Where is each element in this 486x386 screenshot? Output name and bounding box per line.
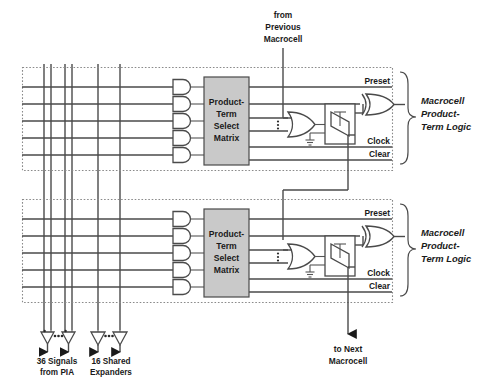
xor-gate-top — [362, 94, 405, 115]
macrocell-top-brace-label-line3: Term Logic — [421, 121, 472, 132]
macrocell-top-brace — [400, 72, 416, 164]
macrocell-bottom-brace-label-line2: Product- — [421, 240, 460, 251]
input-buffers — [41, 330, 127, 352]
macrocell-top-chain-output — [283, 135, 355, 240]
macrocell-bottom-or-input-ellipsis — [277, 252, 279, 261]
diagram-canvas: Product- Term Select Matrix — [0, 0, 486, 386]
matrix-label-line3-bottom: Select — [214, 253, 239, 263]
macrocell-bottom-brace — [400, 204, 416, 296]
clear-label-top: Clear — [369, 149, 391, 159]
multiplexer-bottom — [325, 236, 355, 276]
macrocell-bottom: Product- Term Select Matrix — [22, 200, 472, 335]
from-previous-macrocell-line3: Macrocell — [264, 34, 303, 44]
ground-symbol-bottom — [306, 265, 326, 277]
preset-label-top: Preset — [364, 76, 390, 86]
xor-gate-bottom — [362, 226, 405, 247]
matrix-label-line4-bottom: Matrix — [214, 265, 240, 275]
macrocell-top-brace-label-line1: Macrocell — [421, 95, 465, 106]
from-previous-macrocell-line1: from — [274, 10, 293, 20]
to-next-macrocell-line2: Macrocell — [329, 356, 368, 366]
macrocell-bottom-and-gates — [173, 212, 191, 295]
expanders-label-line2: Expanders — [90, 368, 132, 377]
multiplexer-top — [325, 104, 355, 144]
matrix-label-line4-top: Matrix — [214, 133, 240, 143]
macrocell-bottom-and-outputs — [191, 219, 205, 287]
macrocell-top-or-input-ellipsis — [277, 120, 279, 129]
to-next-macrocell-line1: to Next — [334, 344, 363, 354]
matrix-label-line1-bottom: Product- — [209, 229, 244, 239]
expander-buffer-right — [113, 330, 127, 352]
clear-label-bottom: Clear — [369, 281, 391, 291]
macrocell-logic-diagram: Product- Term Select Matrix — [0, 0, 486, 386]
macrocell-top-and-outputs — [191, 87, 205, 155]
pia-buffer-right — [62, 330, 75, 352]
matrix-label-line1-top: Product- — [209, 97, 244, 107]
macrocell-bottom-chain-output — [348, 267, 355, 334]
pia-buffer-left — [41, 330, 54, 352]
macrocell-bottom-brace-label-line1: Macrocell — [421, 227, 465, 238]
pia-label-line2: from PIA — [40, 368, 74, 377]
macrocell-top-and-gates — [173, 80, 191, 163]
pia-buffer-ellipsis — [54, 335, 64, 338]
matrix-label-line2-bottom: Term — [216, 241, 237, 251]
macrocell-top-brace-label-line2: Product- — [421, 108, 460, 119]
pia-label-line1: 36 Signals — [37, 357, 78, 366]
matrix-label-line2-top: Term — [216, 109, 237, 119]
expanders-label-line1: 16 Shared — [91, 357, 130, 366]
preset-label-bottom: Preset — [364, 208, 390, 218]
expander-buffer-left — [91, 330, 105, 352]
expander-buffer-ellipsis — [104, 335, 114, 338]
clock-label-bottom: Clock — [367, 268, 390, 278]
from-previous-macrocell-line2: Previous — [265, 22, 301, 32]
clock-label-top: Clock — [367, 136, 390, 146]
matrix-label-line3-top: Select — [214, 121, 239, 131]
ground-symbol-top — [306, 133, 326, 145]
macrocell-bottom-brace-label-line3: Term Logic — [421, 253, 472, 264]
